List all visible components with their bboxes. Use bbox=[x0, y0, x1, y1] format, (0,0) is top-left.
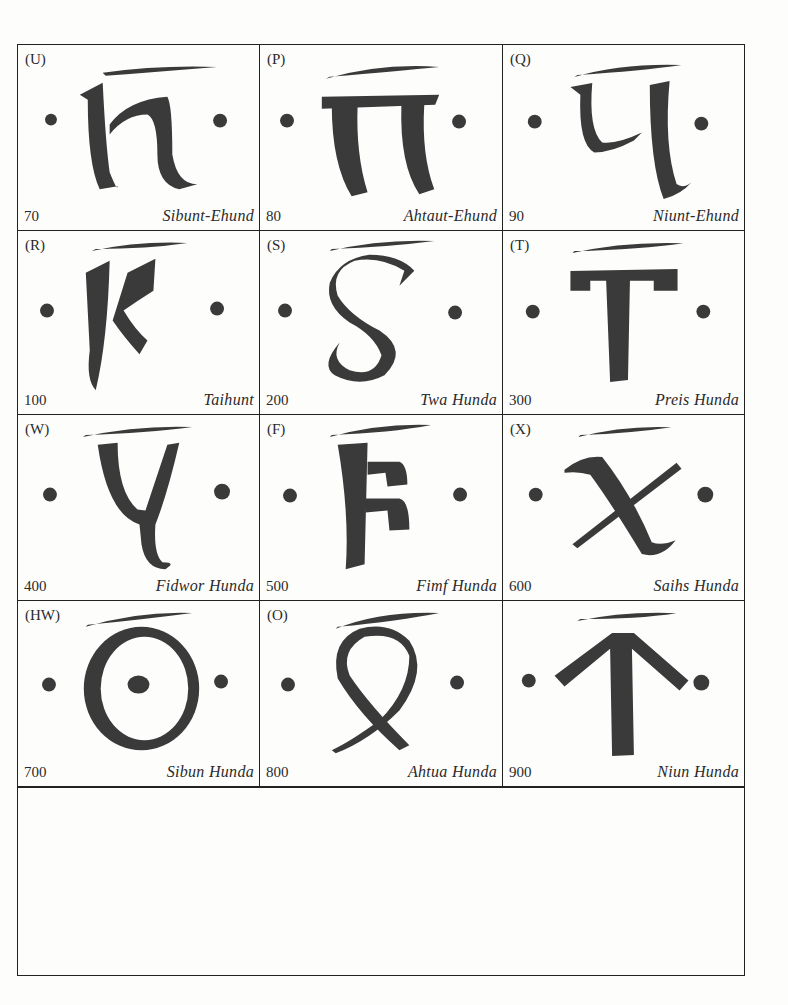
gothic-t-icon bbox=[503, 231, 744, 414]
latin-letter: (U) bbox=[25, 51, 46, 68]
numeral-value: 800 bbox=[266, 764, 289, 781]
numeral-value: 90 bbox=[509, 208, 524, 225]
numeral-cell-90: (Q) 90 Niunt-Ehund bbox=[503, 45, 744, 231]
numeral-name: Ahtua Hunda bbox=[408, 763, 497, 781]
gothic-sampi-icon bbox=[503, 601, 744, 786]
numeral-name: Sibunt-Ehund bbox=[162, 207, 254, 225]
latin-letter: (S) bbox=[267, 237, 285, 254]
numeral-value: 80 bbox=[266, 208, 281, 225]
numeral-value: 900 bbox=[509, 764, 532, 781]
numeral-name: Fidwor Hunda bbox=[156, 577, 254, 595]
numeral-cell-200: (S) 200 Twa Hunda bbox=[260, 231, 503, 415]
gothic-s-icon bbox=[260, 231, 502, 414]
numeral-name: Fimf Hunda bbox=[416, 577, 497, 595]
numeral-value: 700 bbox=[24, 764, 47, 781]
numeral-value: 200 bbox=[266, 392, 289, 409]
latin-letter: (X) bbox=[510, 421, 531, 438]
numeral-value: 600 bbox=[509, 578, 532, 595]
numeral-name: Sibun Hunda bbox=[167, 763, 254, 781]
numeral-cell-500: (F) 500 Fimf Hunda bbox=[260, 415, 503, 601]
numeral-value: 100 bbox=[24, 392, 47, 409]
numeral-cell-800: (O) 800 Ahtua Hunda bbox=[260, 601, 503, 787]
gothic-o-icon bbox=[260, 601, 502, 786]
numeral-cell-700: (HW) 700 Sibun Hunda bbox=[18, 601, 260, 787]
gothic-f-icon bbox=[260, 415, 502, 600]
numeral-cell-70: (U) 70 Sibunt-Ehund bbox=[18, 45, 260, 231]
latin-letter: (HW) bbox=[25, 607, 60, 624]
numeral-cell-400: (W) 400 Fidwor Hunda bbox=[18, 415, 260, 601]
numeral-name: Saihs Hunda bbox=[653, 577, 739, 595]
numeral-cell-100: (R) 100 Taihunt bbox=[18, 231, 260, 415]
gothic-k-icon bbox=[18, 231, 259, 414]
numeral-value: 70 bbox=[24, 208, 39, 225]
numeral-cell-80: (P) 80 Ahtaut-Ehund bbox=[260, 45, 503, 231]
gothic-q-icon bbox=[503, 45, 744, 230]
gothic-x-icon bbox=[503, 415, 744, 600]
empty-panel bbox=[17, 788, 745, 976]
numeral-value: 500 bbox=[266, 578, 289, 595]
numeral-cell-900: 900 Niun Hunda bbox=[503, 601, 744, 787]
numeral-cell-600: (X) 600 Saihs Hunda bbox=[503, 415, 744, 601]
numeral-name: Twa Hunda bbox=[420, 391, 497, 409]
gothic-y-icon bbox=[18, 415, 259, 600]
numeral-name: Ahtaut-Ehund bbox=[404, 207, 497, 225]
latin-letter: (F) bbox=[267, 421, 285, 438]
numeral-name: Taihunt bbox=[204, 391, 254, 409]
gothic-pi-icon bbox=[260, 45, 502, 230]
numeral-name: Niunt-Ehund bbox=[653, 207, 739, 225]
numeral-name: Preis Hunda bbox=[655, 391, 739, 409]
latin-letter: (Q) bbox=[510, 51, 531, 68]
latin-letter: (T) bbox=[510, 237, 529, 254]
numeral-name: Niun Hunda bbox=[657, 763, 739, 781]
numeral-table: (U) 70 Sibunt-Ehund (P) 80 Ahtaut-Ehund … bbox=[17, 44, 745, 788]
numeral-cell-300: (T) 300 Preis Hunda bbox=[503, 231, 744, 415]
gothic-hw-icon bbox=[18, 601, 259, 786]
latin-letter: (R) bbox=[25, 237, 45, 254]
latin-letter: (W) bbox=[25, 421, 49, 438]
latin-letter: (P) bbox=[267, 51, 285, 68]
numeral-value: 400 bbox=[24, 578, 47, 595]
gothic-h-icon bbox=[18, 45, 259, 230]
numeral-value: 300 bbox=[509, 392, 532, 409]
latin-letter: (O) bbox=[267, 607, 288, 624]
